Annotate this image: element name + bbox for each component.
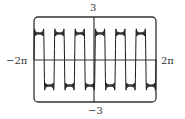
y-min-label: −3 [88, 106, 103, 116]
y-max-label: 3 [90, 3, 96, 13]
x-min-label: −2π [6, 56, 27, 66]
x-max-label: 2π [161, 56, 174, 66]
chart-plot-area [0, 0, 185, 119]
